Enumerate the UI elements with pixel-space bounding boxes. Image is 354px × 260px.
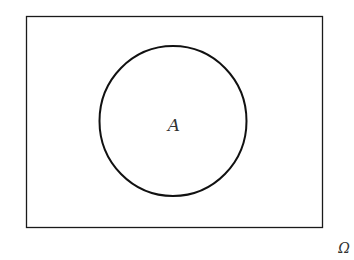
- universe-label: Ω: [337, 240, 350, 256]
- venn-diagram: A Ω: [0, 0, 354, 260]
- venn-svg: A Ω: [0, 0, 354, 260]
- set-a-label: A: [166, 115, 180, 135]
